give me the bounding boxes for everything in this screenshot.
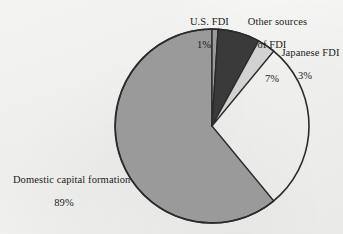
pie-label-domestic-capital-formation: Domestic capital formation 89% bbox=[2, 163, 126, 231]
pie-label-us-fdi-name: U.S. FDI bbox=[190, 16, 229, 27]
pie-chart-figure: U.S. FDI 1% Other sources of FDI 7% Japa… bbox=[0, 0, 343, 234]
pie-label-japanese-fdi-name: Japanese FDI bbox=[281, 47, 339, 58]
pie-label-other-sources-of-fdi-name-line1: Other sources bbox=[248, 16, 307, 27]
pie-label-japanese-fdi: Japanese FDI 3% bbox=[268, 36, 342, 104]
pie-label-japanese-fdi-percent: 3% bbox=[268, 70, 342, 81]
pie-label-domestic-capital-formation-name: Domestic capital formation bbox=[13, 174, 130, 185]
pie-label-domestic-capital-formation-percent: 89% bbox=[2, 197, 126, 208]
